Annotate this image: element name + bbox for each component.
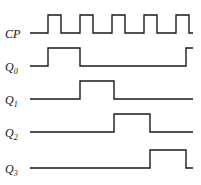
signal-label-q3-subscript: 3 (13, 169, 18, 178)
signal-label-q3-base: Q (5, 162, 14, 176)
diagram-background (0, 0, 201, 185)
signal-label-cp: CP (5, 27, 21, 41)
signal-label-q2-subscript: 2 (14, 133, 18, 142)
signal-label-q0-base: Q (5, 60, 14, 74)
timing-diagram: CP Q0 Q1 Q2 Q3 (0, 0, 201, 185)
signal-label-q1-base: Q (5, 93, 14, 107)
signal-label-q2-base: Q (5, 126, 14, 140)
signal-label-q0-subscript: 0 (14, 67, 18, 76)
signal-label-q1-subscript: 1 (14, 100, 18, 109)
